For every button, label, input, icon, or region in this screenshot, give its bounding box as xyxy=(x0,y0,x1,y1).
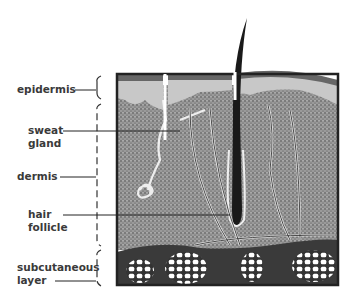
label-hair-follicle-line2: follicle xyxy=(28,221,68,234)
layer-brackets xyxy=(97,76,101,286)
label-sweat-gland-line1: sweat xyxy=(28,124,63,137)
label-hair-follicle-line1: hair xyxy=(28,208,51,221)
label-sweat-gland-line2: gland xyxy=(28,137,61,150)
label-subcutaneous-line1: subcutaneous xyxy=(17,261,100,274)
label-subcutaneous-line2: layer xyxy=(17,274,47,287)
label-epidermis: epidermis xyxy=(17,83,76,96)
label-dermis: dermis xyxy=(17,170,58,183)
skin-diagram xyxy=(0,0,357,302)
